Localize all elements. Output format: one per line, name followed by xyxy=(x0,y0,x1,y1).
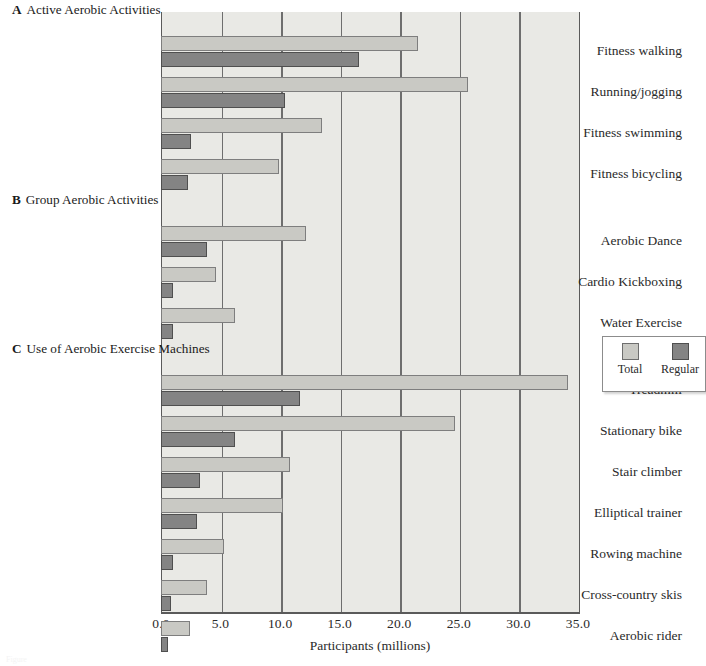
bar-regular xyxy=(161,432,235,447)
legend-label-regular: Regular xyxy=(657,362,703,377)
section-letter: C xyxy=(12,341,22,356)
bar-regular xyxy=(161,555,173,570)
bar-total xyxy=(161,416,455,431)
x-tick-label: 15.0 xyxy=(327,616,351,632)
legend-item-regular: Regular xyxy=(657,343,703,377)
category-label: Rowing machine xyxy=(533,546,688,562)
bar-total xyxy=(161,226,306,241)
gridline xyxy=(341,12,342,612)
legend-swatch-regular-icon xyxy=(672,343,689,360)
bar-total xyxy=(161,77,468,92)
category-label: Water Exercise xyxy=(533,315,688,331)
gridline xyxy=(400,12,401,612)
bar-total xyxy=(161,539,224,554)
section-header-b: BGroup Aerobic Activities xyxy=(12,192,158,208)
section-title: Use of Aerobic Exercise Machines xyxy=(27,341,210,356)
bar-total xyxy=(161,118,322,133)
bar-regular xyxy=(161,324,173,339)
section-letter: B xyxy=(12,192,21,207)
bar-total xyxy=(161,375,568,390)
category-label: Fitness walking xyxy=(533,43,688,59)
bar-regular xyxy=(161,473,200,488)
legend-label-total: Total xyxy=(607,362,653,377)
x-tick-label: 25.0 xyxy=(447,616,471,632)
bar-total xyxy=(161,36,418,51)
bar-regular xyxy=(161,391,300,406)
section-title: Active Aerobic Activities xyxy=(27,2,161,17)
figure-caption: Figure xyxy=(6,655,27,664)
bar-regular xyxy=(161,134,191,149)
bar-total xyxy=(161,621,190,636)
bar-regular xyxy=(161,242,207,257)
category-label: Cardio Kickboxing xyxy=(533,274,688,290)
x-tick-label: 20.0 xyxy=(387,616,411,632)
bar-regular xyxy=(161,52,359,67)
bar-total xyxy=(161,457,290,472)
category-label: Aerobic Dance xyxy=(533,233,688,249)
bar-regular xyxy=(161,93,285,108)
bar-regular xyxy=(161,637,168,652)
category-label: Fitness swimming xyxy=(533,125,688,141)
x-axis-title: Participants (millions) xyxy=(161,638,579,654)
category-label: Running/jogging xyxy=(533,84,688,100)
gridline xyxy=(519,12,520,612)
bar-regular xyxy=(161,514,197,529)
bar-regular xyxy=(161,175,188,190)
gridline xyxy=(579,12,580,612)
x-tick-label: 30.0 xyxy=(506,616,530,632)
section-title: Group Aerobic Activities xyxy=(26,192,159,207)
bar-total xyxy=(161,159,279,174)
legend-swatch-total-icon xyxy=(622,343,639,360)
category-label: Stair climber xyxy=(533,464,688,480)
bar-total xyxy=(161,308,235,323)
section-header-a: AActive Aerobic Activities xyxy=(12,2,161,18)
category-label: Stationary bike xyxy=(533,423,688,439)
bar-total xyxy=(161,267,216,282)
bar-total xyxy=(161,498,283,513)
x-tick-label: 5.0 xyxy=(212,616,229,632)
x-tick-label: 10.0 xyxy=(268,616,292,632)
category-label: Aerobic rider xyxy=(533,628,688,644)
bar-regular xyxy=(161,283,173,298)
legend: Total Regular xyxy=(602,336,706,392)
section-header-c: CUse of Aerobic Exercise Machines xyxy=(12,341,210,357)
legend-item-total: Total xyxy=(607,343,653,377)
bar-total xyxy=(161,580,207,595)
x-axis-line xyxy=(161,612,580,614)
category-label: Fitness bicycling xyxy=(533,166,688,182)
category-label: Cross-country skis xyxy=(533,587,688,603)
gridline xyxy=(460,12,461,612)
category-label: Elliptical trainer xyxy=(533,505,688,521)
section-letter: A xyxy=(12,2,22,17)
bar-regular xyxy=(161,596,171,611)
